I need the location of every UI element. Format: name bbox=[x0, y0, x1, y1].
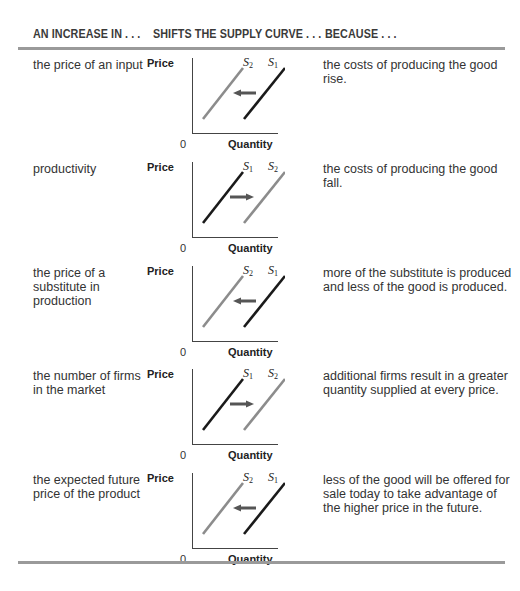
shift-arrow-icon bbox=[230, 401, 254, 408]
reason-text: additional firms result in a greater qua… bbox=[323, 369, 513, 397]
factor-label: the price of an input bbox=[33, 58, 153, 72]
table-row: the price of a substitute in productionP… bbox=[0, 266, 520, 370]
origin-label: 0 bbox=[180, 242, 186, 254]
reason-text: less of the good will be offered for sal… bbox=[323, 473, 513, 515]
factor-label: productivity bbox=[33, 162, 153, 176]
header-rule bbox=[18, 47, 505, 50]
right-curve-label: S1 bbox=[268, 470, 278, 485]
left-curve-label: S2 bbox=[243, 263, 253, 278]
right-curve-label: S1 bbox=[268, 263, 278, 278]
shift-arrow-icon bbox=[230, 194, 254, 201]
price-axis-label: Price bbox=[147, 265, 174, 277]
left-curve-label: S2 bbox=[243, 470, 253, 485]
left-curve-label: S1 bbox=[243, 159, 253, 174]
reason-text: the costs of producing the good fall. bbox=[323, 162, 513, 190]
shift-arrow-icon bbox=[233, 505, 256, 512]
header-shifts-supply-curve: SHIFTS THE SUPPLY CURVE . . . bbox=[153, 27, 321, 41]
quantity-axis-label: Quantity bbox=[228, 242, 273, 254]
table-row: the number of firms in the marketPrice0Q… bbox=[0, 369, 520, 473]
supply-shift-graph: Price0QuantityS2S1 bbox=[145, 471, 285, 567]
origin-label: 0 bbox=[180, 346, 186, 358]
price-axis-label: Price bbox=[147, 472, 174, 484]
supply-shift-graph: Price0QuantityS2S1 bbox=[145, 264, 285, 360]
table-row: the price of an inputPrice0QuantityS2S1t… bbox=[0, 58, 520, 162]
factor-label: the number of firms in the market bbox=[33, 369, 153, 397]
right-curve-label: S1 bbox=[268, 55, 278, 70]
price-axis-label: Price bbox=[147, 368, 174, 380]
supply-shift-graph: Price0QuantityS1S2 bbox=[145, 160, 285, 256]
right-curve-label: S2 bbox=[268, 159, 278, 174]
price-axis-label: Price bbox=[147, 57, 174, 69]
reason-text: more of the substitute is produced and l… bbox=[323, 266, 513, 294]
left-curve-label: S1 bbox=[243, 366, 253, 381]
origin-label: 0 bbox=[180, 449, 186, 461]
factor-label: the expected future price of the product bbox=[33, 473, 153, 501]
quantity-axis-label: Quantity bbox=[228, 449, 273, 461]
shift-arrow-icon bbox=[233, 90, 256, 97]
header-because: BECAUSE . . . bbox=[325, 27, 397, 41]
quantity-axis-label: Quantity bbox=[228, 346, 273, 358]
footer-rule bbox=[18, 561, 505, 564]
shift-arrow-icon bbox=[233, 298, 256, 305]
right-curve-label: S2 bbox=[268, 366, 278, 381]
left-curve-label: S2 bbox=[243, 55, 253, 70]
quantity-axis-label: Quantity bbox=[228, 138, 273, 150]
supply-shift-graph: Price0QuantityS1S2 bbox=[145, 367, 285, 463]
reason-text: the costs of producing the good rise. bbox=[323, 58, 513, 86]
price-axis-label: Price bbox=[147, 161, 174, 173]
supply-shift-graph: Price0QuantityS2S1 bbox=[145, 56, 285, 152]
factor-label: the price of a substitute in production bbox=[33, 266, 153, 308]
origin-label: 0 bbox=[180, 138, 186, 150]
header-increase-in: AN INCREASE IN . . . bbox=[33, 27, 140, 41]
table-row: productivityPrice0QuantityS1S2the costs … bbox=[0, 162, 520, 266]
